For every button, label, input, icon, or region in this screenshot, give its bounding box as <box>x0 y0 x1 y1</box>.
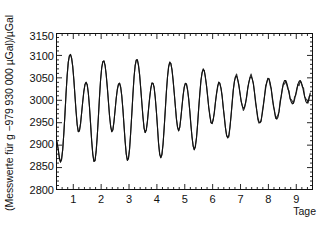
x-tick-label: 2 <box>89 194 113 205</box>
x-tick-label: 7 <box>229 194 253 205</box>
x-tick-label: 9 <box>284 194 308 205</box>
plot-area <box>56 33 313 190</box>
plot-svg <box>56 33 313 190</box>
gravity-tide-chart-figure: (Messwerte für g −979 930 000 µGal)/µGal… <box>0 0 321 226</box>
x-tick-label: 6 <box>201 194 225 205</box>
x-tick-label: 1 <box>61 194 85 205</box>
x-tick-label: 3 <box>117 194 141 205</box>
x-tick-label: 5 <box>173 194 197 205</box>
x-tick-label: 8 <box>256 194 280 205</box>
x-axis-title: Tage <box>293 206 316 217</box>
x-tick-label: 4 <box>145 194 169 205</box>
